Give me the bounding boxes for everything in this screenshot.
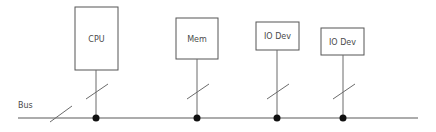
node-label-mem: Mem [187, 35, 207, 44]
slash-tick-icon-io-dev-2 [333, 84, 355, 99]
bus-slash-tick-icon [50, 106, 72, 122]
bus-system-diagram: Bus CPU Mem IO Dev IO Dev [0, 0, 436, 132]
diagram-canvas: Bus CPU Mem IO Dev IO Dev [0, 0, 436, 132]
node-label-cpu: CPU [88, 35, 104, 44]
bus-junction-dot-cpu [93, 115, 100, 122]
slash-tick-icon-cpu [86, 84, 108, 99]
node-io-dev-2[interactable]: IO Dev [321, 28, 364, 122]
node-io-dev-1[interactable]: IO Dev [256, 22, 299, 122]
bus-junction-dot-mem [194, 115, 201, 122]
node-label-io-dev-1: IO Dev [264, 32, 291, 41]
node-cpu[interactable]: CPU [75, 7, 118, 122]
slash-tick-icon-mem [187, 84, 209, 99]
bus-label: Bus [18, 101, 33, 110]
node-label-io-dev-2: IO Dev [329, 38, 356, 47]
bus-junction-dot-io-dev-1 [274, 115, 281, 122]
slash-tick-icon-io-dev-1 [267, 84, 289, 99]
bus-junction-dot-io-dev-2 [340, 115, 347, 122]
node-mem[interactable]: Mem [176, 18, 218, 122]
